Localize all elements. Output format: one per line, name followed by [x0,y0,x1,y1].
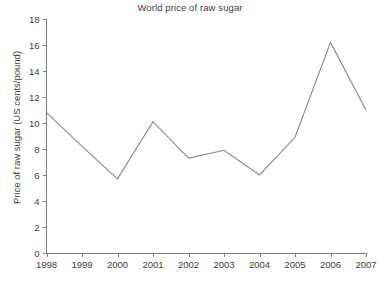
x-tick-label: 2003 [213,259,234,270]
y-tick-label: 2 [34,222,39,233]
x-tick-label: 2007 [355,259,376,270]
x-tick-label: 2005 [284,259,305,270]
x-tick-label: 2001 [142,259,163,270]
x-tick-label: 2004 [249,259,270,270]
x-tick-label: 1998 [36,259,57,270]
y-tick-label: 0 [34,248,39,259]
y-tick-label: 6 [34,170,39,181]
chart-figure: World price of raw sugar Price of raw su… [0,0,380,292]
x-axis-ticks: 1998199920002001200220032004200520062007 [36,253,377,270]
y-axis-ticks: 024681012141618 [29,14,47,259]
y-tick-label: 18 [29,14,40,25]
y-tick-label: 4 [34,196,39,207]
x-tick-label: 2006 [320,259,341,270]
y-tick-label: 10 [29,118,40,129]
y-tick-label: 8 [34,144,39,155]
x-tick-label: 1999 [71,259,92,270]
data-series-line [47,42,367,179]
y-tick-label: 14 [29,66,40,77]
x-tick-label: 2002 [178,259,199,270]
y-tick-label: 16 [29,40,40,51]
plot-area: 024681012141618 199819992000200120022003… [0,0,380,292]
x-tick-label: 2000 [107,259,128,270]
y-tick-label: 12 [29,92,40,103]
